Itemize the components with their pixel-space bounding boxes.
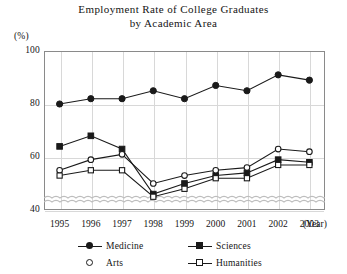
data-point: [88, 157, 94, 163]
x-axis-unit-label: (Year): [303, 219, 327, 229]
data-point: [213, 82, 219, 88]
data-point: [181, 96, 187, 102]
legend-label: Arts: [106, 258, 123, 268]
legend-label: Humanities: [216, 258, 262, 268]
legend-marker-circle-filled-icon: [78, 241, 102, 251]
legend-item-arts[interactable]: Arts: [78, 258, 123, 268]
data-point: [57, 167, 63, 173]
chart-legend: MedicineSciencesArtsHumanities: [0, 238, 347, 274]
data-point: [150, 181, 156, 187]
legend-marker-circle-open-icon: [78, 258, 102, 268]
legend-symbol: [196, 242, 203, 249]
data-point: [57, 173, 62, 178]
legend-marker-square-open-icon: [188, 258, 212, 268]
legend-symbol: [86, 259, 93, 266]
data-point: [182, 181, 188, 187]
data-point: [307, 149, 313, 155]
data-point: [307, 162, 312, 167]
data-point: [119, 168, 124, 173]
chart-title-line-2: by Academic Area: [0, 17, 347, 31]
legend-symbol: [196, 259, 203, 266]
legend-item-medicine[interactable]: Medicine: [78, 241, 143, 251]
legend-item-humanities[interactable]: Humanities: [188, 258, 262, 268]
data-point: [275, 157, 281, 163]
data-point: [276, 162, 281, 167]
data-point: [275, 146, 281, 152]
series-layer: [44, 51, 325, 210]
legend-item-sciences[interactable]: Sciences: [188, 241, 251, 251]
data-point: [150, 88, 156, 94]
data-point: [57, 101, 63, 107]
data-point: [88, 168, 93, 173]
gridline-horizontal: [45, 211, 324, 212]
data-point: [244, 176, 249, 181]
y-axis-tick-label: 100: [0, 45, 40, 55]
data-point: [88, 96, 94, 102]
data-point: [119, 96, 125, 102]
data-point: [213, 167, 219, 173]
y-axis-tick-label: 40: [0, 204, 40, 214]
data-point: [182, 173, 188, 179]
series-medicine: [57, 72, 313, 107]
data-point: [244, 165, 250, 171]
chart-title-line-1: Employment Rate of College Graduates: [78, 3, 268, 15]
data-point: [88, 133, 94, 139]
data-point: [244, 88, 250, 94]
data-point: [119, 152, 125, 158]
legend-marker-square-filled-icon: [188, 241, 212, 251]
legend-label: Medicine: [106, 241, 143, 251]
data-point: [182, 186, 187, 191]
data-point: [213, 176, 218, 181]
data-point: [306, 77, 312, 83]
y-axis-tick-label: 60: [0, 151, 40, 161]
data-point: [275, 72, 281, 78]
chart-title: Employment Rate of College Graduates by …: [0, 3, 347, 30]
data-point: [57, 144, 63, 150]
legend-label: Sciences: [216, 241, 251, 251]
x-axis-labels: 199519961997199819992000200120022003(Yea…: [0, 219, 347, 233]
legend-symbol: [86, 242, 93, 249]
data-point: [151, 194, 156, 199]
employment-rate-chart: Employment Rate of College Graduates by …: [0, 0, 347, 274]
y-axis-tick-label: 80: [0, 98, 40, 108]
